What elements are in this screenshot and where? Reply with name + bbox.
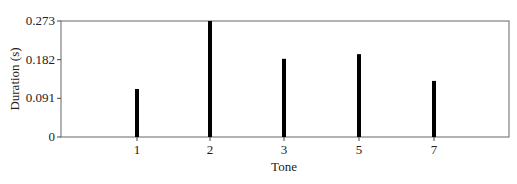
x-tick-label: 2: [207, 142, 214, 157]
y-tick-label: 0.091: [26, 90, 55, 105]
x-tick-label: 5: [356, 142, 363, 157]
x-tick-label: 1: [134, 142, 141, 157]
y-axis-ticks: 00.0910.1820.273: [26, 13, 61, 144]
bar-chart: 00.0910.1820.273 12357 Tone Duration (s): [0, 0, 517, 184]
y-axis-label: Duration (s): [7, 47, 22, 110]
y-tick-label: 0: [49, 129, 56, 144]
x-axis-label: Tone: [271, 159, 297, 174]
x-axis-ticks: 12357: [134, 137, 438, 157]
bar-tone-5: [357, 54, 361, 137]
bars: [135, 21, 436, 137]
y-tick-label: 0.182: [26, 52, 55, 67]
bar-tone-1: [135, 89, 139, 137]
x-tick-label: 7: [431, 142, 438, 157]
bar-tone-7: [432, 81, 436, 137]
x-tick-label: 3: [281, 142, 288, 157]
y-tick-label: 0.273: [26, 13, 55, 28]
bar-tone-3: [282, 59, 286, 137]
bar-tone-2: [208, 21, 212, 137]
